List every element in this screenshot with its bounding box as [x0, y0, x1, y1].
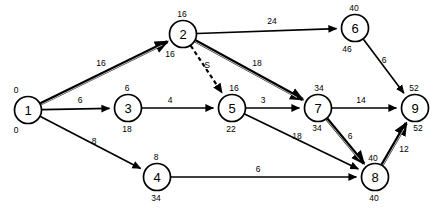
node-label-2: 2	[179, 27, 186, 42]
edge-label-8-9: 12	[399, 144, 409, 154]
edge-1-to-2	[41, 42, 168, 105]
node-earliest-time-8: 40	[368, 153, 378, 163]
node-3[interactable]: 3618	[115, 83, 142, 134]
network-diagram-canvas: 16682418S43186614612 1002161636184834516…	[0, 0, 443, 211]
edge-label-5-8: 18	[292, 131, 302, 141]
node-label-7: 7	[314, 101, 321, 116]
edge-1-to-3	[42, 108, 110, 109]
node-2[interactable]: 21616	[165, 9, 196, 59]
node-7[interactable]: 73434	[305, 83, 332, 133]
edge-2-to-6	[197, 29, 337, 34]
node-5[interactable]: 51622	[219, 83, 246, 134]
node-1[interactable]: 100	[14, 85, 42, 135]
node-latest-time-8: 40	[369, 193, 379, 203]
node-latest-time-6: 46	[342, 44, 352, 54]
node-latest-time-9: 52	[413, 123, 423, 133]
node-4[interactable]: 4834	[144, 152, 171, 203]
edge-2-to-7	[195, 41, 303, 100]
edge-label-1-4: 8	[92, 136, 97, 146]
node-earliest-time-6: 40	[349, 3, 359, 13]
node-earliest-time-1: 0	[14, 85, 19, 95]
node-label-8: 8	[371, 170, 378, 185]
node-label-5: 5	[228, 101, 235, 116]
node-latest-time-5: 22	[226, 124, 236, 134]
node-6[interactable]: 64046	[342, 3, 369, 54]
edge-5-to-8	[245, 114, 359, 169]
edge-label-2-6: 24	[267, 16, 277, 26]
node-latest-time-7: 34	[312, 123, 322, 133]
edge-label-5-7: 3	[261, 95, 266, 105]
node-earliest-time-5: 16	[229, 83, 239, 93]
node-label-4: 4	[153, 170, 160, 185]
node-label-3: 3	[124, 101, 131, 116]
edge-label-2-5: S	[204, 60, 210, 70]
node-label-9: 9	[411, 101, 418, 116]
edge-label-1-2: 16	[96, 58, 106, 68]
edge-label-4-8: 6	[256, 164, 261, 174]
edge-6-to-9	[363, 39, 404, 93]
node-earliest-time-7: 34	[314, 83, 324, 93]
node-latest-time-4: 34	[151, 193, 161, 203]
node-label-1: 1	[24, 103, 31, 118]
node-earliest-time-9: 52	[409, 83, 419, 93]
node-earliest-time-4: 8	[154, 152, 159, 162]
node-latest-time-2: 16	[165, 49, 175, 59]
edge-label-2-7: 18	[252, 58, 262, 68]
edge-label-3-5: 4	[168, 95, 173, 105]
edge-label-7-9: 14	[356, 95, 366, 105]
edge-label-7-8: 6	[348, 131, 353, 141]
edge-label-6-9: 6	[382, 55, 387, 65]
node-latest-time-1: 0	[14, 125, 19, 135]
edge-label-1-3: 6	[78, 95, 83, 105]
node-label-6: 6	[351, 21, 358, 36]
node-earliest-time-3: 6	[125, 83, 130, 93]
node-earliest-time-2: 16	[177, 9, 187, 19]
node-latest-time-3: 18	[122, 124, 132, 134]
network-diagram: 16682418S43186614612 1002161636184834516…	[0, 0, 443, 211]
